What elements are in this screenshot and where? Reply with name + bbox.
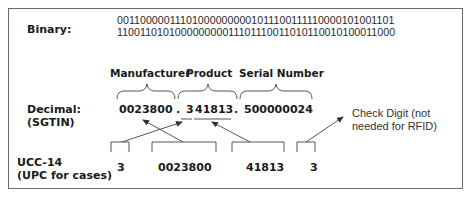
connector-graphics — [0, 0, 470, 198]
brace-serial — [240, 84, 312, 99]
brace-product — [178, 84, 237, 99]
arrow-product-to-sgtin — [212, 122, 250, 142]
arrow-check-digit-to-note — [306, 117, 343, 142]
bracket-indicator — [111, 142, 129, 152]
brace-manufacturer — [117, 84, 175, 99]
bracket-product — [232, 142, 284, 152]
bracket-manufacturer — [152, 142, 216, 152]
bracket-check-digit — [297, 142, 315, 152]
